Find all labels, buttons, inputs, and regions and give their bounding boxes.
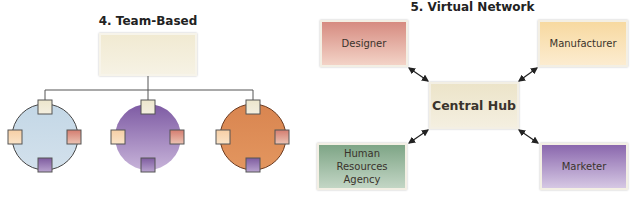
marketer-node: Marketer — [540, 143, 628, 190]
designer-node: Designer — [320, 20, 408, 67]
team-circle-1 — [8, 100, 81, 172]
hr-agency-node: Human Resources Agency — [317, 143, 407, 190]
virtual-network-title: 5. Virtual Network — [400, 0, 545, 14]
team-circle-3 — [216, 100, 289, 172]
central-hub-label: Central Hub — [432, 99, 516, 112]
central-hub-node: Central Hub — [429, 82, 519, 129]
team-circle-2 — [111, 100, 184, 172]
hr-agency-label: Human Resources Agency — [333, 147, 391, 186]
manufacturer-node: Manufacturer — [538, 20, 628, 67]
marketer-label: Marketer — [562, 160, 607, 173]
manufacturer-label: Manufacturer — [550, 37, 617, 50]
designer-label: Designer — [342, 37, 387, 50]
